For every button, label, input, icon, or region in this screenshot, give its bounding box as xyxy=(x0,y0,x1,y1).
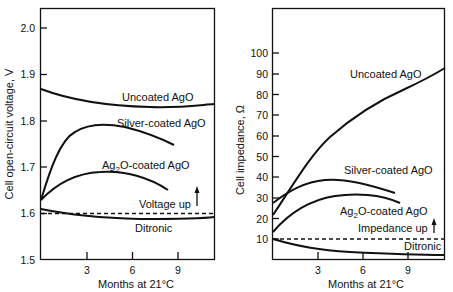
right-x-axis-label: Months at 21°C xyxy=(328,278,404,290)
up-arrow-icon xyxy=(432,218,437,233)
right-ytick: 20 xyxy=(256,213,268,225)
right-ytick: 100 xyxy=(250,47,268,59)
right-label-impedance-up: Impedance up xyxy=(358,222,428,234)
left-x-axis: 3 6 9 Months at 21°C xyxy=(84,252,181,290)
up-arrow-icon xyxy=(195,186,200,206)
right-xtick: 9 xyxy=(405,264,411,276)
right-label-uncoated: Uncoated AgO xyxy=(350,68,422,80)
left-xtick: 6 xyxy=(130,264,136,276)
left-plot-frame xyxy=(41,9,215,260)
right-curve-silver xyxy=(273,180,395,203)
left-x-axis-label: Months at 21°C xyxy=(98,278,174,290)
left-y-axis-label: Cell open-circuit voltage, V xyxy=(3,68,15,200)
right-xtick: 3 xyxy=(315,264,321,276)
left-ytick: 1.5 xyxy=(20,254,35,266)
right-label-ag2o: Ag2O-coated AgO xyxy=(340,205,428,220)
left-xtick: 3 xyxy=(84,264,90,276)
right-x-axis: 3 6 9 Months at 21°C xyxy=(315,252,411,290)
impedance-chart: 100 90 80 70 60 50 40 30 20 10 Cell impe… xyxy=(234,9,445,291)
left-xtick: 9 xyxy=(175,264,181,276)
right-y-axis-label: Cell impedance, Ω xyxy=(234,105,246,195)
right-curve-uncoated xyxy=(273,68,445,215)
figure: 2.0 1.9 1.8 1.7 1.6 1.5 Cell open-circui… xyxy=(0,0,453,292)
left-ytick: 1.8 xyxy=(20,115,35,127)
left-ytick: 1.6 xyxy=(20,207,35,219)
right-ytick: 70 xyxy=(256,109,268,121)
voltage-chart: 2.0 1.9 1.8 1.7 1.6 1.5 Cell open-circui… xyxy=(3,9,215,291)
right-ytick: 30 xyxy=(256,192,268,204)
left-curve-ag2o xyxy=(41,172,168,200)
left-ytick: 1.7 xyxy=(20,161,35,173)
right-ytick: 80 xyxy=(256,89,268,101)
right-label-ditronic: Ditronic xyxy=(404,240,442,252)
right-ytick: 60 xyxy=(256,130,268,142)
left-label-silver: Silver-coated AgO xyxy=(117,117,206,129)
right-xtick: 6 xyxy=(360,264,366,276)
left-ytick: 1.9 xyxy=(20,68,35,80)
right-ytick: 10 xyxy=(256,233,268,245)
left-label-ag2o: Ag2O-coated AgO xyxy=(102,159,190,174)
left-label-ditronic: Ditronic xyxy=(135,222,173,234)
right-ytick: 50 xyxy=(256,151,268,163)
left-label-voltage-up: Voltage up xyxy=(139,198,191,210)
left-ytick: 2.0 xyxy=(20,22,35,34)
right-ytick: 90 xyxy=(256,68,268,80)
right-label-silver: Silver-coated AgO xyxy=(344,164,433,176)
left-label-uncoated: Uncoated AgO xyxy=(122,91,194,103)
right-ytick: 40 xyxy=(256,171,268,183)
